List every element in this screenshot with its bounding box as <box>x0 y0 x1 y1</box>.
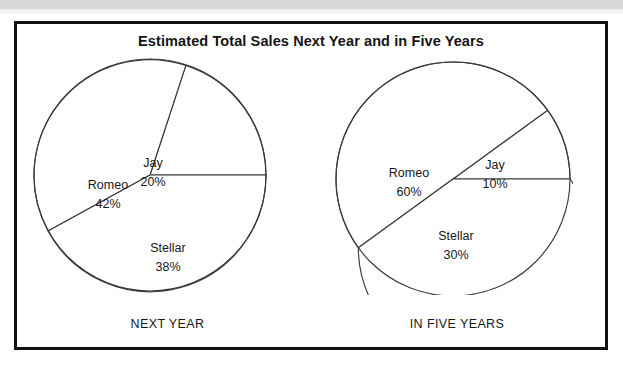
scan-artifact-band-light <box>0 9 623 14</box>
pie-label-percent: 38% <box>123 258 213 277</box>
pie-label-percent: 42% <box>63 195 153 214</box>
pie-label-stellar-next-year: Stellar 38% <box>123 239 213 277</box>
pie-label-name: Jay <box>455 156 535 175</box>
pie-label-name: Jay <box>113 154 193 173</box>
panel-caption-next-year: NEXT YEAR <box>19 317 316 331</box>
pie-label-percent: 30% <box>411 246 501 265</box>
pie-label-name: Romeo <box>63 176 153 195</box>
pie-label-name: Stellar <box>123 239 213 258</box>
pie-label-name: Romeo <box>364 164 454 183</box>
panel-caption-five-years: IN FIVE YEARS <box>310 317 604 331</box>
pie-label-percent: 60% <box>364 183 454 202</box>
pie-panel-five-years: Jay 10% Stellar 30% Romeo 60% IN FIVE YE… <box>314 24 608 347</box>
scanned-page: Estimated Total Sales Next Year and in F… <box>0 0 623 367</box>
pie-panel-next-year: Jay 20% Stellar 38% Romeo 42% NEXT YEAR <box>17 24 314 347</box>
pie-label-name: Stellar <box>411 227 501 246</box>
pie-label-percent: 10% <box>455 175 535 194</box>
pie-label-jay-five-years: Jay 10% <box>455 156 535 194</box>
figure-frame: Estimated Total Sales Next Year and in F… <box>14 21 608 350</box>
pie-label-romeo-five-years: Romeo 60% <box>364 164 454 202</box>
scan-artifact-band-dark <box>0 0 623 9</box>
pie-label-stellar-five-years: Stellar 30% <box>411 227 501 265</box>
pie-label-romeo-next-year: Romeo 42% <box>63 176 153 214</box>
